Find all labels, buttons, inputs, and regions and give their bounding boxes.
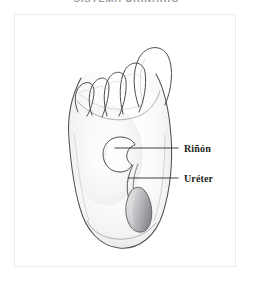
diagram-page: SISTEMA URINARIO (0, 0, 253, 285)
label-ureter: Uréter (184, 173, 213, 184)
page-title-bar: SISTEMA URINARIO (0, 0, 253, 7)
foot-reflexology-figure (15, 15, 237, 268)
label-kidney: Riñón (184, 143, 211, 154)
illustration-plate: Riñón Uréter (14, 14, 236, 267)
page-title: SISTEMA URINARIO (0, 0, 253, 5)
